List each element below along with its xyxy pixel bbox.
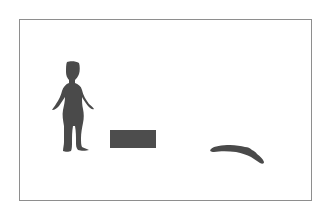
lying-shape-silhouette-icon: Lying shape	[208, 142, 268, 168]
standing-human-silhouette-icon: Standing figure	[48, 60, 98, 154]
rectangle-block: Block	[110, 130, 156, 148]
diagram-description: Silhouette diagram: standing human figur…	[20, 20, 21, 21]
